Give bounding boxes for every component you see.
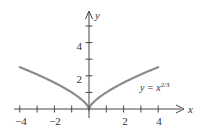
x-tick-label: 2: [122, 115, 128, 127]
x-axis: x −4 −2 2 4: [14, 103, 193, 127]
y-axis-label: y: [94, 9, 100, 21]
x-tick-label: 4: [156, 115, 162, 127]
y-axis: y 2 4: [77, 9, 101, 118]
curve-label: y = x2/3: [139, 81, 170, 93]
y-tick-label: 2: [77, 73, 83, 85]
x-axis-label: x: [187, 103, 193, 115]
y-tick-label: 4: [77, 40, 83, 52]
chart: x −4 −2 2 4 y 2 4 y = x2/3: [0, 0, 201, 139]
x-tick-label: −2: [49, 115, 61, 127]
x-tick-label: −4: [15, 115, 27, 127]
